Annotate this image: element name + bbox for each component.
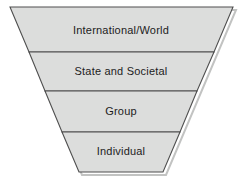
tier-group: Group <box>45 91 197 132</box>
tier-label-individual: Individual <box>97 145 145 157</box>
funnel-diagram: International/World State and Societal G… <box>0 0 242 187</box>
funnel-svg: International/World State and Societal G… <box>0 0 242 187</box>
tier-label-international-world: International/World <box>73 24 169 36</box>
tier-label-group: Group <box>105 105 137 117</box>
tier-state-and-societal: State and Societal <box>29 52 214 91</box>
tier-label-state-and-societal: State and Societal <box>75 65 168 77</box>
tier-individual: Individual <box>62 132 180 172</box>
tier-international-world: International/World <box>10 7 233 52</box>
